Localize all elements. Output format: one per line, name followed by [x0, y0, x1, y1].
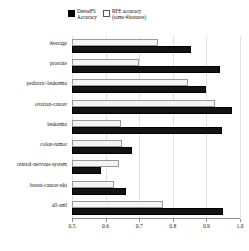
bar-densefs — [72, 167, 101, 174]
y-axis-category-labels: Averageprostatepediatric-leukemiaovarian… — [0, 36, 69, 218]
y-axis-label-cell: leukemia — [0, 117, 69, 137]
chart-legend: DenseFSAccuracy RFE accuracy(same #featu… — [68, 8, 188, 20]
y-axis-label-cell: pediatric-leukemia — [0, 76, 69, 96]
bar-densefs — [72, 208, 223, 215]
bar-rfe — [72, 181, 114, 188]
bar-group — [72, 137, 240, 157]
legend-entry-densefs: DenseFSAccuracy — [68, 8, 97, 20]
accuracy-comparison-bar-chart: DenseFSAccuracy RFE accuracy(same #featu… — [0, 0, 249, 251]
bar-group — [72, 97, 240, 117]
y-axis-label-cell: ovarian-cancer — [0, 97, 69, 117]
bar-rfe — [72, 160, 119, 167]
bar-group — [72, 36, 240, 56]
legend-label-densefs: DenseFSAccuracy — [77, 8, 97, 20]
y-axis-label-cell: colon-tumor — [0, 137, 69, 157]
y-axis-label-cell: prostate — [0, 56, 69, 76]
y-axis-label: pediatric-leukemia — [27, 80, 67, 87]
x-tick-mark — [72, 219, 73, 222]
x-tick-mark — [139, 219, 140, 222]
gridline — [240, 36, 241, 218]
x-tick-label: 0.5 — [69, 223, 76, 230]
y-axis-label-cell: breast-cancer-nki — [0, 178, 69, 198]
plot-area — [72, 36, 240, 218]
y-axis-label: leukemia — [47, 121, 67, 128]
legend-label-rfe: RFE accuracy(same #features) — [112, 8, 146, 20]
bar-densefs — [72, 46, 191, 53]
bar-rfe — [72, 140, 122, 147]
x-tick-label: 0.9 — [203, 223, 210, 230]
bar-densefs — [72, 86, 206, 93]
bar-group — [72, 56, 240, 76]
bar-group — [72, 198, 240, 218]
bar-densefs — [72, 66, 220, 73]
y-axis-label: all-aml — [52, 202, 67, 209]
x-axis-ticks: 0.50.60.70.80.91.0 — [72, 219, 240, 233]
x-tick-label: 0.7 — [136, 223, 143, 230]
x-tick-mark — [106, 219, 107, 222]
hollow-square-icon — [103, 10, 110, 17]
y-axis-label-cell: central-nervous-system — [0, 157, 69, 177]
bar-group — [72, 76, 240, 96]
bar-group — [72, 157, 240, 177]
x-tick-label: 0.6 — [102, 223, 109, 230]
x-tick-label: 0.8 — [169, 223, 176, 230]
y-axis-label: Average — [49, 40, 67, 47]
y-axis-label: colon-tumor — [40, 141, 67, 148]
x-tick-mark — [240, 219, 241, 222]
bar-rfe — [72, 39, 158, 46]
x-tick-mark — [206, 219, 207, 222]
legend-entry-rfe: RFE accuracy(same #features) — [103, 8, 146, 20]
y-axis-label-cell: all-aml — [0, 198, 69, 218]
filled-square-icon — [68, 10, 75, 17]
bar-rfe — [72, 120, 121, 127]
y-axis-label-cell: Average — [0, 36, 69, 56]
y-axis-label: breast-cancer-nki — [30, 182, 67, 189]
bar-group — [72, 117, 240, 137]
x-tick-mark — [173, 219, 174, 222]
bar-densefs — [72, 188, 126, 195]
bar-densefs — [72, 107, 232, 114]
bar-rfe — [72, 59, 139, 66]
bar-rfe — [72, 100, 215, 107]
bar-densefs — [72, 147, 132, 154]
y-axis-label: ovarian-cancer — [35, 101, 67, 108]
bar-rfe — [72, 201, 163, 208]
x-tick-label: 1.0 — [237, 223, 244, 230]
bar-densefs — [72, 127, 222, 134]
bar-group — [72, 178, 240, 198]
bar-rfe — [72, 79, 188, 86]
y-axis-label: central-nervous-system — [17, 161, 67, 168]
bar-rows — [72, 36, 240, 218]
y-axis-label: prostate — [50, 60, 67, 67]
